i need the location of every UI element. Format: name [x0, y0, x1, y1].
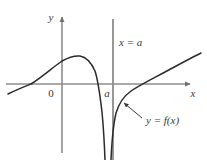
- asymptote-equation-label: x = a: [118, 36, 143, 48]
- curve-equation-label: y = f(x): [145, 114, 179, 127]
- origin-label: 0: [48, 87, 54, 99]
- x-axis-label: x: [190, 87, 196, 99]
- asymptote-tick-label: a: [104, 87, 110, 99]
- curve-right-branch: [111, 53, 201, 160]
- y-axis-label: y: [48, 11, 54, 23]
- curve-label-leader-line: [124, 103, 142, 118]
- function-graph-figure: y x 0 a x = a y = f(x): [0, 0, 207, 160]
- curve-left-branch: [8, 56, 105, 160]
- graph-canvas: y x 0 a x = a y = f(x): [0, 0, 207, 160]
